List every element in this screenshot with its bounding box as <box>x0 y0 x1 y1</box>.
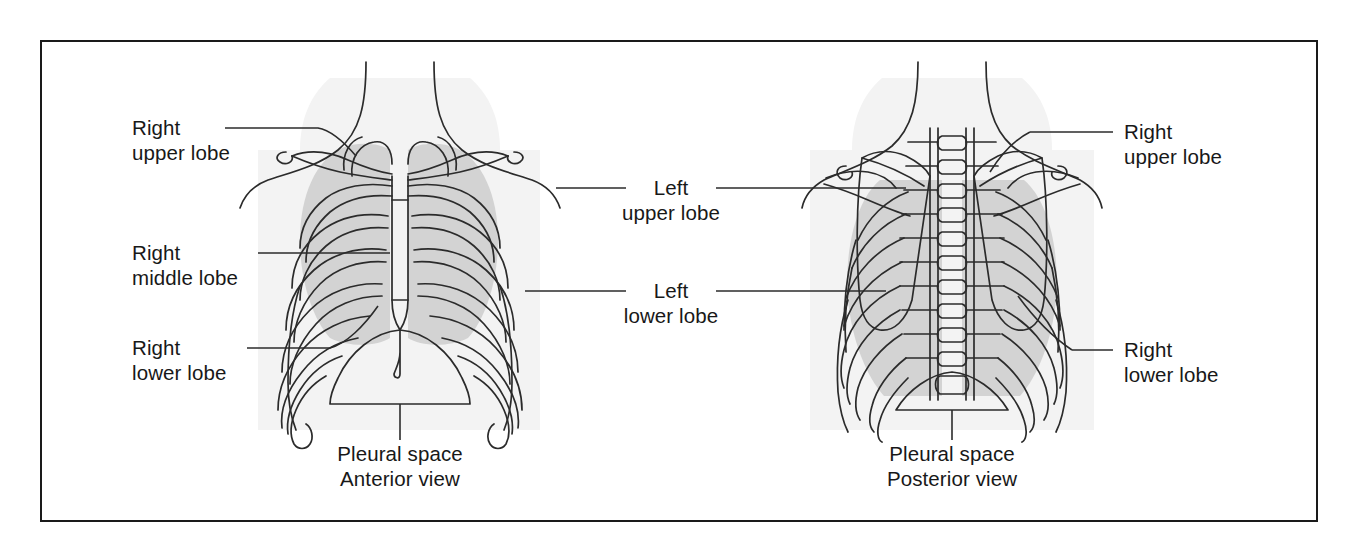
label-right-middle-lobe: Rightmiddle lobe <box>132 240 238 290</box>
label-right-upper-lobe-left: Rightupper lobe <box>132 115 230 165</box>
posterior-figure <box>802 62 1102 442</box>
label-left-lower-lobe: Leftlower lobe <box>611 278 731 328</box>
diagram-stage: Rightupper lobe Rightmiddle lobe Rightlo… <box>0 0 1351 545</box>
anterior-figure <box>240 62 560 449</box>
label-right-upper-lobe-right: Rightupper lobe <box>1124 119 1222 169</box>
label-left-upper-lobe: Leftupper lobe <box>611 175 731 225</box>
label-right-lower-lobe-left: Rightlower lobe <box>132 335 226 385</box>
caption-anterior: Pleural spaceAnterior view <box>290 441 510 491</box>
label-right-lower-lobe-right: Rightlower lobe <box>1124 337 1218 387</box>
caption-posterior: Pleural spacePosterior view <box>842 441 1062 491</box>
